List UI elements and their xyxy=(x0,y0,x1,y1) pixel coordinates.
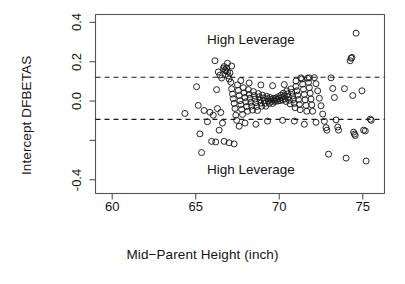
data-point xyxy=(313,119,319,125)
y-tick-label: 0.0 xyxy=(69,92,84,110)
data-point xyxy=(253,121,259,127)
data-point xyxy=(197,131,203,137)
dfbetas-scatter-figure: 60657075 0.40.20.0-0.4 High LeverageHigh… xyxy=(0,0,405,284)
data-point xyxy=(318,103,324,109)
data-point xyxy=(307,90,313,96)
data-point xyxy=(328,75,334,81)
data-point xyxy=(182,110,188,116)
data-point xyxy=(308,96,314,102)
data-point xyxy=(201,107,207,113)
data-point xyxy=(303,102,309,108)
data-point xyxy=(315,88,321,94)
data-point xyxy=(213,139,219,145)
data-point xyxy=(350,93,356,99)
y-axis-ticks xyxy=(90,22,96,179)
data-point xyxy=(313,81,319,87)
data-point xyxy=(310,108,316,114)
data-point xyxy=(214,106,220,112)
x-tick-label: 65 xyxy=(188,199,202,214)
data-point xyxy=(218,109,224,115)
data-point xyxy=(331,95,337,101)
data-point xyxy=(359,88,365,94)
y-tick-label: -0.4 xyxy=(69,169,84,191)
data-point xyxy=(212,58,218,64)
data-points-group xyxy=(182,30,374,164)
data-point xyxy=(320,111,326,117)
data-point xyxy=(280,117,286,123)
data-point xyxy=(343,155,349,161)
data-point xyxy=(214,87,220,93)
y-tick-label: 0.2 xyxy=(69,53,84,71)
data-point xyxy=(195,102,201,108)
data-point xyxy=(270,83,276,89)
plot-canvas xyxy=(0,0,405,284)
data-point xyxy=(302,97,308,103)
data-point xyxy=(333,117,339,123)
x-axis-title: Mid−Parent Height (inch) xyxy=(0,247,405,262)
data-point xyxy=(330,85,336,91)
y-axis-title: Intercept DFBETAS xyxy=(19,56,34,175)
data-point xyxy=(363,158,369,164)
high-leverage-label: High Leverage xyxy=(207,32,295,47)
x-tick-label: 70 xyxy=(272,199,286,214)
data-point xyxy=(301,121,307,127)
data-point xyxy=(242,120,248,126)
data-point xyxy=(353,30,359,36)
data-point xyxy=(194,84,200,90)
x-axis-ticks xyxy=(112,194,363,200)
data-point xyxy=(309,102,315,108)
data-point xyxy=(326,151,332,157)
data-point xyxy=(238,78,244,84)
data-point xyxy=(316,95,322,101)
data-point xyxy=(341,86,347,92)
x-tick-label: 60 xyxy=(105,199,119,214)
high-leverage-label: High Leverage xyxy=(207,162,295,177)
data-point xyxy=(281,82,287,88)
data-point xyxy=(258,82,264,88)
data-point xyxy=(236,123,242,129)
data-point xyxy=(219,120,225,126)
data-point xyxy=(304,108,310,114)
data-point xyxy=(216,127,222,133)
data-point xyxy=(246,80,252,86)
x-tick-label: 75 xyxy=(356,199,370,214)
data-point xyxy=(199,150,205,156)
y-tick-label: 0.4 xyxy=(69,13,84,31)
